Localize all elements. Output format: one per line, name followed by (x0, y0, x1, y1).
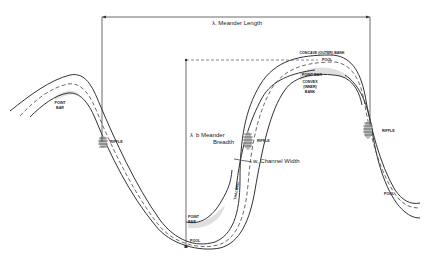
breadth-bottom-marker-icon (185, 245, 188, 248)
convex-bank-label-2: (INNER) (303, 85, 317, 89)
point-bar-top-label: POINT BAR (302, 73, 322, 77)
riffle-center-symbol (243, 132, 253, 150)
riffle-right-label: RIFFLE (382, 129, 395, 133)
right-bank-line (345, 75, 420, 218)
arrow-left-icon (102, 16, 106, 19)
riffle-right-symbol (363, 121, 373, 139)
channel-width-line (234, 159, 252, 162)
arrow-right-icon (366, 16, 370, 19)
convex-bank-label-1: CONVEX (302, 80, 318, 84)
channel-width-label: w, Channel Width (252, 158, 300, 164)
meander-diagram: λ, Meander Length λ b Meander Breadth w,… (0, 0, 430, 262)
meander-length-label: λ, Meander Length (212, 20, 262, 26)
point-bar-left-label-1: POINT (55, 101, 67, 105)
meander-breadth-label-2: b Meander (196, 132, 225, 138)
point-bar-bottom-label-1: POINT (188, 215, 200, 219)
meander-breadth-label-1: λ (190, 132, 193, 138)
concave-bank-label: CONCAVE (OUTER) BANK (299, 51, 344, 55)
point-bar-left-label-2: BAR (56, 106, 64, 110)
breadth-top-marker-icon (185, 59, 187, 61)
pool-top-label: POOL (322, 58, 333, 62)
meander-breadth-label-3: Breadth (213, 139, 234, 145)
riffle-left-label: RIFFLE (110, 140, 123, 144)
point-bar-bottom-label-2: BAR (188, 220, 196, 224)
pool-right-label: POOL (384, 192, 395, 196)
thalweg-line (20, 62, 420, 247)
riffle-center-label: RIFFLE (257, 139, 270, 143)
pool-bottom-label: POOL (190, 239, 201, 243)
convex-bank-label-3: BANK (305, 90, 316, 94)
riffle-left-symbol (98, 136, 108, 148)
